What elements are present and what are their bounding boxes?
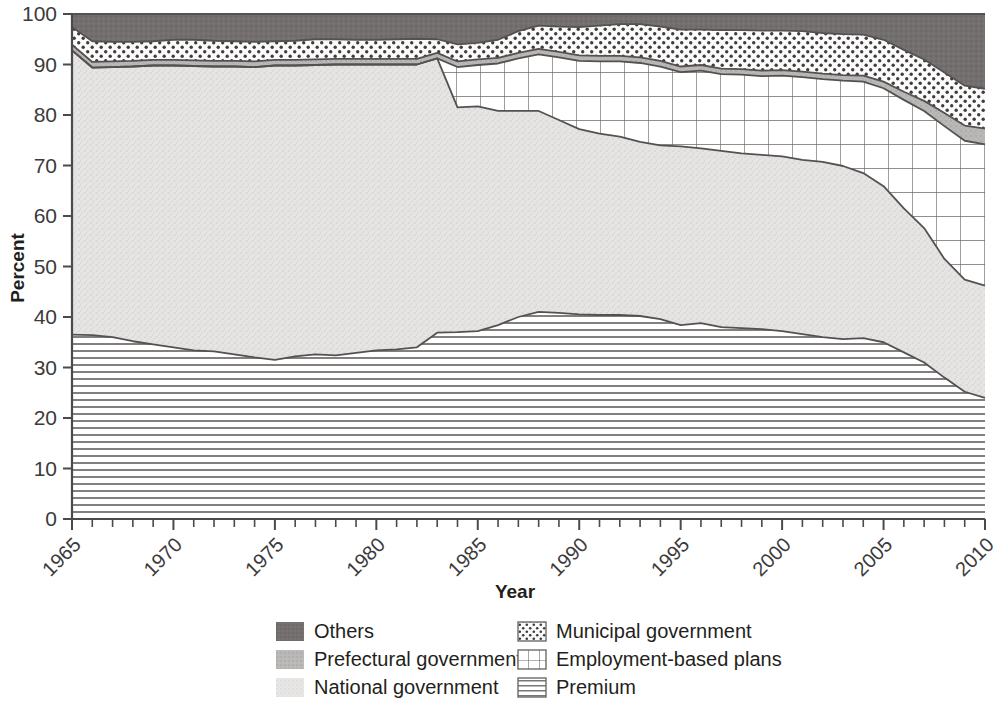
- y-tick-label: 90: [34, 53, 57, 76]
- y-tick-label: 60: [34, 204, 57, 227]
- legend-swatch: [518, 622, 546, 641]
- legend-label: Municipal government: [556, 620, 752, 642]
- y-tick-label: 70: [34, 154, 57, 177]
- legend-swatch: [276, 622, 304, 641]
- chart-figure: 0102030405060708090100 19651970197519801…: [0, 0, 1001, 702]
- y-tick-label: 80: [34, 103, 57, 126]
- y-tick-label: 100: [22, 2, 57, 25]
- x-tick-label: 1985: [444, 533, 491, 580]
- x-tick-label: 2000: [748, 533, 795, 580]
- x-tick-label: 1980: [342, 533, 389, 580]
- x-tick-label: 1995: [646, 533, 693, 580]
- y-tick-label: 30: [34, 356, 57, 379]
- x-tick-label: 1965: [38, 533, 85, 580]
- legend-swatch: [518, 650, 546, 669]
- legend-label: Employment-based plans: [556, 648, 782, 670]
- x-tick-label: 2005: [849, 533, 896, 580]
- y-tick-label: 50: [34, 255, 57, 278]
- plot-area: [72, 14, 985, 519]
- x-axis-tick-labels: 1965197019751980198519901995200020052010: [38, 533, 998, 580]
- chart-legend: OthersPrefectural governmentNational gov…: [276, 620, 782, 698]
- legend-swatch: [276, 678, 304, 697]
- y-axis-title: Percent: [7, 232, 28, 302]
- y-tick-label: 10: [34, 457, 57, 480]
- legend-swatch: [518, 678, 546, 697]
- y-tick-label: 40: [34, 305, 57, 328]
- x-tick-label: 1970: [139, 533, 186, 580]
- stacked-area-chart: 0102030405060708090100 19651970197519801…: [0, 0, 1001, 702]
- x-tick-label: 1975: [241, 533, 288, 580]
- legend-label: Others: [314, 620, 374, 642]
- legend-label: Premium: [556, 676, 636, 698]
- legend-label: National government: [314, 676, 499, 698]
- y-tick-label: 20: [34, 406, 57, 429]
- legend-label: Prefectural government: [314, 648, 522, 670]
- x-axis-title: Year: [495, 581, 536, 602]
- y-tick-label: 0: [45, 507, 57, 530]
- x-tick-label: 2010: [951, 533, 998, 580]
- x-tick-label: 1990: [545, 533, 592, 580]
- legend-swatch: [276, 650, 304, 669]
